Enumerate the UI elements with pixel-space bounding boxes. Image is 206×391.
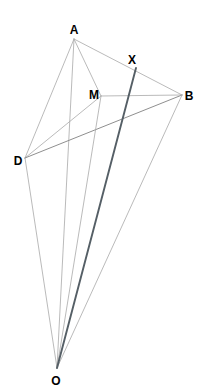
geometry-figure: A X B M D O <box>0 0 206 391</box>
segment-D-B <box>25 95 182 158</box>
segment-B-O <box>57 95 182 368</box>
vertex-label-D: D <box>14 155 23 167</box>
segment-D-O <box>25 158 57 368</box>
segment-layer <box>25 39 182 368</box>
geometry-canvas <box>0 0 206 391</box>
segment-M-B <box>101 95 182 96</box>
segment-A-O <box>57 39 74 368</box>
segment-A-B <box>74 39 182 95</box>
segment-X-O <box>57 68 136 368</box>
vertex-label-A: A <box>70 24 79 36</box>
vertex-label-M: M <box>89 89 99 101</box>
vertex-label-B: B <box>185 90 194 102</box>
vertex-label-O: O <box>51 375 60 387</box>
segment-D-M <box>25 96 101 158</box>
vertex-label-X: X <box>128 54 136 66</box>
segment-A-D <box>25 39 74 158</box>
